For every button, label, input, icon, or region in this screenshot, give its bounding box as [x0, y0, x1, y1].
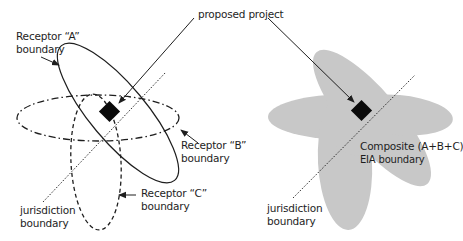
receptor-b-label-line2: boundary [181, 152, 246, 165]
receptor-b-label: Receptor “B” boundary [181, 139, 246, 165]
jurisdiction-label-left-line2: boundary [20, 217, 75, 230]
jurisdiction-label-left: jurisdiction boundary [20, 204, 75, 230]
proposed-project-label: proposed project [198, 8, 283, 21]
composite-label-line1: Composite (A+B+C) [360, 140, 463, 153]
receptor-b-boundary [17, 95, 179, 141]
receptor-c-label-line1: Receptor “C” [141, 187, 207, 200]
receptor-b-label-line1: Receptor “B” [181, 139, 246, 152]
jurisdiction-boundary-line-left [43, 72, 166, 202]
composite-label-line2: EIA boundary [360, 153, 463, 166]
jurisdiction-label-right-line2: boundary [267, 215, 322, 228]
jurisdiction-label-left-line1: jurisdiction [20, 204, 75, 217]
receptor-c-label-line2: boundary [141, 200, 207, 213]
receptor-c-label: Receptor “C” boundary [141, 187, 207, 213]
receptor-a-label: Receptor “A” boundary [16, 30, 79, 56]
jurisdiction-label-right-line1: jurisdiction [267, 202, 322, 215]
jurisdiction-label-right: jurisdiction boundary [267, 202, 322, 228]
receptor-a-label-line2: boundary [16, 43, 79, 56]
right-diagram [268, 18, 455, 231]
receptor-a-arrow [41, 57, 59, 65]
receptor-a-label-line1: Receptor “A” [16, 30, 79, 43]
composite-label: Composite (A+B+C) EIA boundary [360, 140, 463, 166]
project-marker-left [99, 101, 120, 122]
proposed-project-arrow-left [119, 18, 194, 103]
